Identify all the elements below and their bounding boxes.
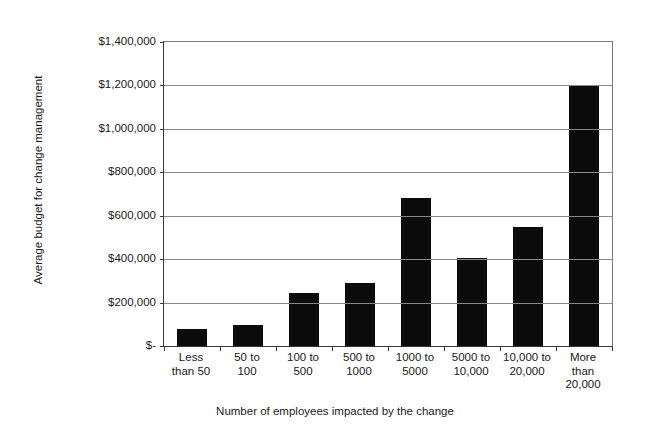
y-axis-tick-mark: [160, 259, 164, 260]
x-axis-tick-label-line: More: [555, 351, 611, 365]
x-axis-tick-label-line: Less: [163, 351, 219, 365]
bars-layer: [164, 42, 612, 346]
x-axis-tick-label-line: 50 to: [219, 351, 275, 365]
bar-slot: [444, 42, 500, 346]
y-axis-tick-label: $1,400,000: [46, 35, 156, 47]
x-axis-tick-label-line: 500: [275, 365, 331, 379]
gridline: [164, 216, 612, 217]
gridline: [164, 129, 612, 130]
x-axis-tick-labels: Lessthan 5050 to100100 to500500 to100010…: [163, 351, 611, 397]
x-axis-tick-label-line: 20,000: [555, 378, 611, 392]
gridline: [164, 172, 612, 173]
x-axis-tick-label-line: 1000: [331, 365, 387, 379]
bar: [513, 227, 543, 346]
x-axis-tick-mark: [612, 346, 613, 351]
x-axis-tick-label: 5000 to10,000: [443, 351, 499, 378]
y-axis-tick-label: $1,000,000: [46, 122, 156, 134]
x-axis-tick-label-line: 100: [219, 365, 275, 379]
y-axis-tick-label: $200,000: [46, 296, 156, 308]
y-axis-tick-label: $1,200,000: [46, 78, 156, 90]
x-axis-title: Number of employees impacted by the chan…: [0, 404, 648, 418]
x-axis-tick-label: 1000 to5000: [387, 351, 443, 378]
x-axis-tick-label-line: 10,000 to: [499, 351, 555, 365]
bar: [289, 293, 319, 346]
bar-chart: Average budget for change management $1,…: [0, 0, 648, 437]
bar-slot: [388, 42, 444, 346]
y-axis-tick-label: $800,000: [46, 165, 156, 177]
x-axis-tick-label-line: 1000 to: [387, 351, 443, 365]
y-axis-tick-labels: $1,400,000$1,200,000$1,000,000$800,000$6…: [46, 0, 156, 437]
plot-area: [163, 41, 613, 347]
bar: [401, 198, 431, 346]
x-axis-tick-label-line: 5000 to: [443, 351, 499, 365]
bar-slot: [220, 42, 276, 346]
y-axis-tick-mark: [160, 216, 164, 217]
bar: [177, 329, 207, 346]
x-axis-tick-label: Lessthan 50: [163, 351, 219, 378]
x-axis-tick-label: 500 to1000: [331, 351, 387, 378]
bar-slot: [164, 42, 220, 346]
bar: [233, 325, 263, 346]
x-axis-tick-label: 50 to100: [219, 351, 275, 378]
y-axis-tick-mark: [160, 172, 164, 173]
x-axis-tick-label-line: 100 to: [275, 351, 331, 365]
x-axis-tick-label: Morethan20,000: [555, 351, 611, 392]
y-axis-tick-label: $600,000: [46, 209, 156, 221]
gridline: [164, 303, 612, 304]
y-axis-tick-mark: [160, 85, 164, 86]
y-axis-tick-mark: [160, 42, 164, 43]
bar-slot: [500, 42, 556, 346]
x-axis-tick-label-line: than: [555, 365, 611, 379]
x-axis-tick-label: 100 to500: [275, 351, 331, 378]
bar-slot: [332, 42, 388, 346]
x-axis-tick-label-line: 500 to: [331, 351, 387, 365]
y-axis-tick-mark: [160, 303, 164, 304]
bar: [345, 283, 375, 346]
bar-slot: [276, 42, 332, 346]
x-axis-tick-label-line: than 50: [163, 365, 219, 379]
gridline: [164, 259, 612, 260]
gridline: [164, 85, 612, 86]
y-axis-tick-label: $-: [46, 339, 156, 351]
x-axis-tick-label: 10,000 to20,000: [499, 351, 555, 378]
x-axis-tick-label-line: 20,000: [499, 365, 555, 379]
x-axis-tick-label-line: 5000: [387, 365, 443, 379]
bar-slot: [556, 42, 612, 346]
y-axis-tick-label: $400,000: [46, 252, 156, 264]
x-axis-tick-label-line: 10,000: [443, 365, 499, 379]
y-axis-tick-mark: [160, 129, 164, 130]
